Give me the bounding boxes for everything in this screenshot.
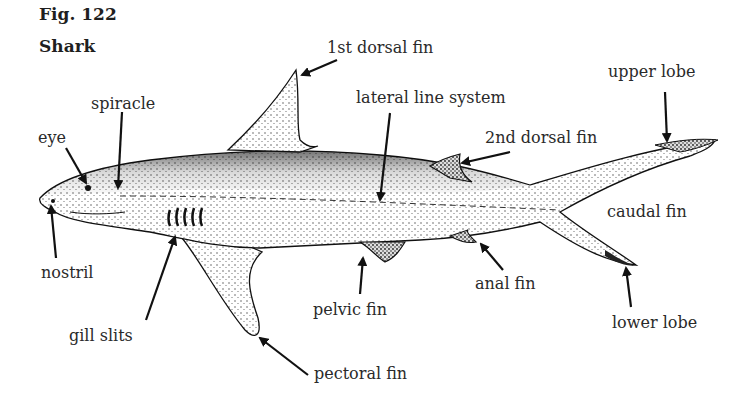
label-first-dorsal-fin: 1st dorsal fin <box>327 38 433 57</box>
nostril-shape <box>51 199 55 203</box>
label-upper-lobe: upper lobe <box>608 62 695 81</box>
label-anal-fin: anal fin <box>475 274 536 293</box>
label-gill-slits: gill slits <box>69 326 133 345</box>
label-lower-lobe: lower lobe <box>612 313 697 332</box>
eye-shape <box>85 185 91 191</box>
label-nostril: nostril <box>41 263 93 282</box>
label-pectoral-fin: pectoral fin <box>314 364 407 383</box>
first-dorsal-fin-shape <box>228 70 318 152</box>
label-second-dorsal-fin: 2nd dorsal fin <box>485 128 597 147</box>
pectoral-fin-shape <box>182 238 262 335</box>
label-spiracle: spiracle <box>91 94 155 113</box>
label-pelvic-fin: pelvic fin <box>313 300 387 319</box>
label-eye: eye <box>38 128 66 147</box>
label-lateral-line-system: lateral line system <box>356 88 506 107</box>
pelvic-fin-shape <box>360 242 405 262</box>
label-caudal-fin: caudal fin <box>607 202 687 221</box>
